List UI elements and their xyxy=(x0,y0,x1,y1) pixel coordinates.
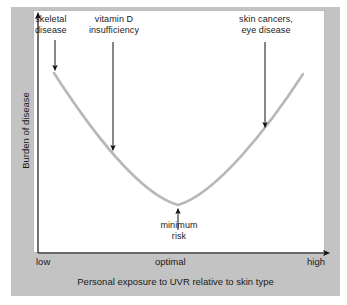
x-tick-label-optimal: optimal xyxy=(155,256,186,267)
annotation-skin-cancers-line2: eye disease xyxy=(225,25,307,36)
annotation-vitamin-d-insufficiency: vitamin D insufficiency xyxy=(78,14,150,35)
annotation-skin-cancers-eye-disease: skin cancers, eye disease xyxy=(225,14,307,35)
annotation-skeletal-disease: skeletal disease xyxy=(35,14,67,35)
annotation-minimum-risk: minimum risk xyxy=(146,220,212,241)
annotation-vitamin-d-line2: insufficiency xyxy=(78,25,150,36)
annotation-skeletal-disease-line1: skeletal xyxy=(35,14,67,25)
annotation-skin-cancers-line1: skin cancers, xyxy=(225,14,307,25)
x-axis-label: Personal exposure to UVR relative to ski… xyxy=(11,276,340,287)
annotation-minimum-risk-line1: minimum xyxy=(146,220,212,231)
annotation-vitamin-d-line1: vitamin D xyxy=(78,14,150,25)
x-tick-label-low: low xyxy=(36,256,50,267)
y-axis-label: Burden of disease xyxy=(20,61,31,201)
x-tick-label-high: high xyxy=(307,256,325,267)
annotation-minimum-risk-line2: risk xyxy=(146,231,212,242)
plot-area xyxy=(33,10,325,253)
annotation-skeletal-disease-line2: disease xyxy=(35,25,67,36)
figure-container: skeletal disease vitamin D insufficiency… xyxy=(0,0,347,305)
